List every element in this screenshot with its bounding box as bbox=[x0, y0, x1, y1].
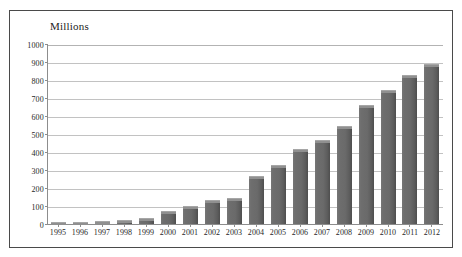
x-axis-tick-mark bbox=[431, 224, 432, 227]
x-axis-label-1995: 1995 bbox=[47, 228, 69, 237]
y-axis-tick-label: 700 bbox=[31, 95, 44, 104]
bar-slot bbox=[311, 45, 333, 224]
x-axis-tick-mark bbox=[102, 224, 103, 227]
bar-slot bbox=[92, 45, 114, 224]
x-axis-tick-mark bbox=[124, 224, 125, 227]
x-axis-tick-mark bbox=[58, 224, 59, 227]
x-axis-tick-mark bbox=[344, 224, 345, 227]
bar-slot bbox=[399, 45, 421, 224]
x-axis-label-2003: 2003 bbox=[223, 228, 245, 237]
y-axis-tick-mark bbox=[45, 224, 48, 225]
y-axis-tick-label: 0 bbox=[40, 221, 44, 230]
x-axis-label-1999: 1999 bbox=[135, 228, 157, 237]
bar-slot bbox=[158, 45, 180, 224]
bar-2008[interactable] bbox=[337, 126, 352, 224]
x-axis-tick-mark bbox=[234, 224, 235, 227]
bar-slot bbox=[70, 45, 92, 224]
x-axis-label-2006: 2006 bbox=[289, 228, 311, 237]
bar-2001[interactable] bbox=[183, 206, 198, 224]
x-axis-label-2007: 2007 bbox=[311, 228, 333, 237]
x-axis-tick-mark bbox=[388, 224, 389, 227]
y-axis-tick-label: 800 bbox=[31, 77, 44, 86]
x-axis-label-2002: 2002 bbox=[201, 228, 223, 237]
y-axis-tick-label: 1000 bbox=[27, 41, 44, 50]
y-axis-tick-label: 100 bbox=[31, 203, 44, 212]
x-axis-labels: 1995199619971998199920002001200220032004… bbox=[47, 228, 443, 237]
bar-slot bbox=[333, 45, 355, 224]
x-axis-tick-mark bbox=[190, 224, 191, 227]
x-axis-tick-mark bbox=[256, 224, 257, 227]
y-axis-tick-label: 200 bbox=[31, 185, 44, 194]
bar-2000[interactable] bbox=[161, 211, 176, 224]
x-axis-label-1996: 1996 bbox=[69, 228, 91, 237]
plot-area: 01002003004005006007008009001000 bbox=[47, 45, 443, 225]
bar-2005[interactable] bbox=[271, 165, 286, 224]
bar-2007[interactable] bbox=[315, 140, 330, 224]
bar-slot bbox=[421, 45, 443, 224]
bar-2011[interactable] bbox=[402, 75, 417, 224]
bar-2006[interactable] bbox=[293, 149, 308, 224]
bar-slot bbox=[48, 45, 70, 224]
x-axis-label-1997: 1997 bbox=[91, 228, 113, 237]
bar-slot bbox=[114, 45, 136, 224]
x-axis-tick-mark bbox=[80, 224, 81, 227]
cut-caption-sliver bbox=[0, 0, 462, 8]
bar-slot bbox=[355, 45, 377, 224]
x-axis-tick-mark bbox=[322, 224, 323, 227]
x-axis-label-2012: 2012 bbox=[421, 228, 443, 237]
bar-2009[interactable] bbox=[359, 105, 374, 224]
x-axis-label-1998: 1998 bbox=[113, 228, 135, 237]
x-axis-tick-mark bbox=[366, 224, 367, 227]
plot-wrapper: 01002003004005006007008009001000 bbox=[47, 45, 443, 225]
bar-2010[interactable] bbox=[381, 90, 396, 224]
bars-group bbox=[48, 45, 443, 224]
x-axis-tick-mark bbox=[300, 224, 301, 227]
x-axis-tick-mark bbox=[168, 224, 169, 227]
bar-slot bbox=[136, 45, 158, 224]
bar-slot bbox=[267, 45, 289, 224]
bar-slot bbox=[224, 45, 246, 224]
x-axis-label-2004: 2004 bbox=[245, 228, 267, 237]
x-axis-label-2009: 2009 bbox=[355, 228, 377, 237]
bar-slot bbox=[377, 45, 399, 224]
chart-frame: Millions 0100200300400500600700800900100… bbox=[9, 10, 453, 248]
y-axis-tick-label: 900 bbox=[31, 59, 44, 68]
bar-2003[interactable] bbox=[227, 198, 242, 224]
bar-slot bbox=[180, 45, 202, 224]
bar-2004[interactable] bbox=[249, 176, 264, 224]
bar-slot bbox=[245, 45, 267, 224]
chart-title: Millions bbox=[50, 20, 89, 32]
y-axis-tick-label: 500 bbox=[31, 131, 44, 140]
x-axis-label-2005: 2005 bbox=[267, 228, 289, 237]
x-axis-label-2008: 2008 bbox=[333, 228, 355, 237]
x-axis-tick-mark bbox=[409, 224, 410, 227]
figure-page: Millions 0100200300400500600700800900100… bbox=[0, 0, 462, 257]
x-axis-label-2000: 2000 bbox=[157, 228, 179, 237]
y-axis-tick-label: 400 bbox=[31, 149, 44, 158]
y-axis-tick-label: 600 bbox=[31, 113, 44, 122]
x-axis-label-2011: 2011 bbox=[399, 228, 421, 237]
y-axis-tick-label: 300 bbox=[31, 167, 44, 176]
bar-2002[interactable] bbox=[205, 200, 220, 224]
bar-slot bbox=[202, 45, 224, 224]
x-axis-tick-mark bbox=[278, 224, 279, 227]
x-axis-label-2010: 2010 bbox=[377, 228, 399, 237]
bar-2012[interactable] bbox=[424, 64, 439, 224]
bar-slot bbox=[289, 45, 311, 224]
x-axis-tick-mark bbox=[212, 224, 213, 227]
x-axis-label-2001: 2001 bbox=[179, 228, 201, 237]
x-axis-tick-mark bbox=[146, 224, 147, 227]
